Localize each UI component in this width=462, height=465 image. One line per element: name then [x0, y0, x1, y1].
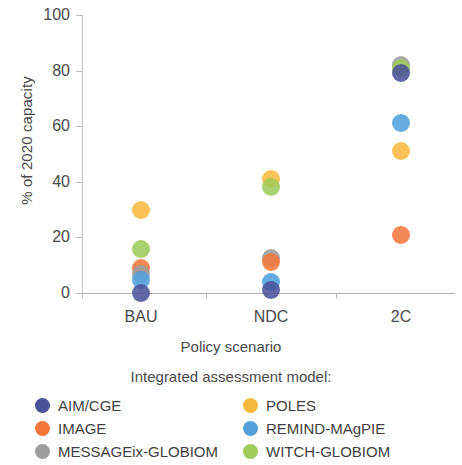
y-tick-label: 40: [26, 174, 70, 190]
legend-label: POLES: [266, 397, 316, 414]
legend: Integrated assessment model: AIM/CGEPOLE…: [0, 368, 462, 463]
legend-label: REMIND-MAgPIE: [266, 420, 385, 437]
legend-entries: AIM/CGEPOLESIMAGEREMIND-MAgPIEMESSAGEix-…: [35, 394, 427, 463]
legend-swatch-icon: [35, 421, 50, 436]
y-axis-line: [82, 15, 83, 293]
data-point: [392, 226, 410, 244]
x-tick-mark: [336, 293, 337, 299]
legend-entry: MESSAGEix-GLOBIOM: [35, 443, 243, 460]
legend-label: MESSAGEix-GLOBIOM: [58, 443, 218, 460]
data-point: [262, 281, 280, 299]
y-tick-label: 60: [26, 118, 70, 134]
x-axis-title: Policy scenario: [0, 338, 462, 355]
y-tick-label: 100: [26, 7, 70, 23]
x-tick-label: NDC: [211, 309, 331, 325]
data-point: [392, 114, 410, 132]
y-tick-label: 0: [26, 285, 70, 301]
x-tick-mark: [206, 293, 207, 299]
legend-entry: WITCH-GLOBIOM: [243, 443, 427, 460]
data-point: [132, 201, 150, 219]
x-tick-label: 2C: [341, 309, 461, 325]
x-tick-mark: [82, 293, 83, 299]
legend-swatch-icon: [243, 398, 258, 413]
data-point: [262, 253, 280, 271]
legend-entry: POLES: [243, 397, 427, 414]
data-point: [392, 142, 410, 160]
legend-swatch-icon: [35, 444, 50, 459]
legend-label: IMAGE: [58, 420, 106, 437]
legend-label: AIM/CGE: [58, 397, 121, 414]
legend-swatch-icon: [243, 421, 258, 436]
legend-title: Integrated assessment model:: [0, 368, 462, 385]
legend-label: WITCH-GLOBIOM: [266, 443, 390, 460]
data-point: [132, 284, 150, 302]
x-tick-label: BAU: [81, 309, 201, 325]
scatter-chart: % of 2020 capacity 020406080100 BAUNDC2C…: [0, 0, 462, 465]
y-tick-label: 20: [26, 229, 70, 245]
data-point: [262, 178, 280, 196]
plot-area: % of 2020 capacity 020406080100 BAUNDC2C: [0, 0, 462, 300]
legend-entry: REMIND-MAgPIE: [243, 420, 427, 437]
legend-entry: IMAGE: [35, 420, 243, 437]
data-point: [392, 64, 410, 82]
legend-swatch-icon: [35, 398, 50, 413]
y-tick-label: 80: [26, 63, 70, 79]
legend-entry: AIM/CGE: [35, 397, 243, 414]
legend-swatch-icon: [243, 444, 258, 459]
data-point: [132, 240, 150, 258]
